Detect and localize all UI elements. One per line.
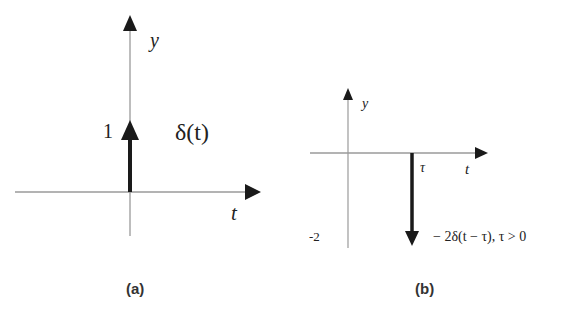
figure-a: y t 1 δ(t) (a)	[15, 15, 261, 297]
a-x-axis-label: t	[231, 201, 238, 225]
a-y-axis-label: y	[148, 29, 159, 52]
a-x-axis-arrow-icon	[245, 184, 261, 200]
a-impulse-label: δ(t)	[175, 119, 209, 145]
b-caption: (b)	[415, 280, 434, 297]
b-impulse-arrow-icon	[405, 231, 419, 246]
figure-b: y t τ -2 − 2δ(t − τ), τ > 0 (b)	[309, 88, 526, 297]
a-impulse-arrow-icon	[121, 120, 139, 140]
impulse-diagrams: y t 1 δ(t) (a) y t τ -2 − 2δ(t − τ), τ >…	[0, 0, 562, 310]
b-impulse-label: − 2δ(t − τ), τ > 0	[433, 229, 526, 245]
b-shift-label: τ	[420, 160, 426, 175]
b-x-axis-arrow-icon	[475, 147, 488, 159]
b-y-axis-arrow-icon	[343, 88, 353, 100]
b-y-axis-label: y	[360, 96, 369, 111]
b-x-axis-label: t	[465, 161, 470, 177]
a-y-axis-arrow-icon	[123, 15, 137, 31]
b-impulse-value-label: -2	[309, 229, 320, 244]
a-impulse-value-label: 1	[103, 120, 113, 142]
a-caption: (a)	[126, 280, 144, 297]
